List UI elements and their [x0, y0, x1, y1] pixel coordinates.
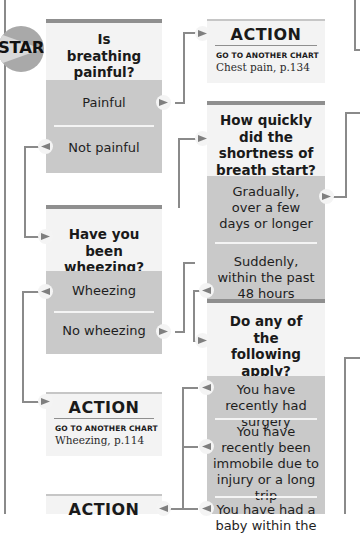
options-group: Painful Not painful: [46, 80, 162, 173]
option-no-wheezing[interactable]: No wheezing: [46, 323, 162, 339]
question-title: Do any of the following apply?: [207, 313, 325, 379]
arrow-in-action-partial-icon: [156, 501, 171, 516]
action-subtitle: GO TO ANOTHER CHART: [55, 424, 158, 433]
option-separator: [215, 242, 317, 244]
question-rule: [207, 101, 325, 105]
arrow-in-wheezing-icon: [38, 229, 53, 244]
page-border-line: [4, 0, 6, 514]
arrow-out-gradually-icon: [319, 189, 334, 204]
action-title: ACTION: [207, 25, 325, 44]
option-recent-baby[interactable]: You have had a baby within the: [207, 502, 325, 534]
option-wheezing[interactable]: Wheezing: [46, 283, 162, 299]
option-gradually[interactable]: Gradually, over a few days or longer: [207, 184, 325, 232]
connector-gradually-out-v: [345, 112, 347, 198]
question-rule: [46, 205, 162, 209]
question-any-apply: Do any of the following apply? You have …: [207, 299, 325, 514]
option-not-painful[interactable]: Not painful: [46, 140, 162, 156]
start-marker: START: [0, 26, 44, 72]
option-separator: [54, 125, 154, 127]
question-title: Is breathing painful?: [46, 31, 162, 81]
connector-gradually-out-top: [345, 112, 360, 114]
arrow-in-how-quickly-icon: [195, 131, 210, 146]
question-title: How quickly did the shortness of breath …: [207, 112, 325, 178]
option-separator: [54, 311, 154, 313]
question-how-quickly: How quickly did the shortness of breath …: [207, 101, 325, 317]
arrow-out-suddenly-icon: [199, 283, 214, 298]
action-reference-link[interactable]: Chest pain, p.134: [216, 61, 310, 73]
options-group: You have recently had surgery You have r…: [207, 376, 325, 514]
connector-any-apply-1: [182, 387, 198, 389]
connector-nowheezing-out-v: [183, 262, 185, 333]
option-separator: [215, 418, 317, 420]
question-breathing-painful: Is breathing painful? Painful Not painfu…: [46, 19, 162, 173]
arrow-out-immobile-icon: [199, 439, 214, 454]
action-title: ACTION: [46, 398, 162, 417]
action-title: ACTION: [46, 500, 162, 519]
connector-top-right-h: [354, 49, 360, 51]
action-top-rule: [46, 392, 162, 394]
question-rule: [46, 19, 162, 23]
arrow-out-wheezing-icon: [38, 284, 53, 299]
option-suddenly[interactable]: Suddenly, within the past 48 hours: [207, 254, 325, 302]
action-wheezing: ACTION GO TO ANOTHER CHART Wheezing, p.1…: [46, 392, 162, 456]
arrow-out-surgery-icon: [199, 380, 214, 395]
action-top-rule: [46, 494, 162, 496]
action-subtitle: GO TO ANOTHER CHART: [216, 51, 319, 60]
connector-suddenly-out-v: [193, 290, 195, 342]
option-recent-surgery[interactable]: You have recently had surgery: [207, 382, 325, 430]
option-painful[interactable]: Painful: [46, 95, 162, 111]
question-title: Have you been wheezing?: [46, 226, 162, 276]
connector-top-right-v: [354, 0, 356, 51]
action-chest-pain: ACTION GO TO ANOTHER CHART Chest pain, p…: [207, 19, 325, 83]
connector-right-lower-h: [344, 357, 360, 359]
action-rule: [215, 45, 317, 46]
option-separator: [215, 496, 317, 498]
start-label: START: [0, 38, 44, 57]
options-group: Gradually, over a few days or longer Sud…: [207, 176, 325, 317]
arrow-out-no-wheezing-icon: [156, 324, 171, 339]
connector-any-apply-bracket: [182, 387, 184, 510]
connector-right-lower-v: [344, 357, 346, 514]
arrow-out-painful-icon: [156, 95, 171, 110]
question-wheezing: Have you been wheezing? Wheezing No whee…: [46, 205, 162, 354]
connector-to-how-quickly-v: [178, 138, 180, 208]
connector-any-apply-2: [182, 446, 198, 448]
arrow-in-action-chest-pain-icon: [195, 26, 210, 41]
connector-any-apply-3: [168, 508, 198, 510]
question-rule: [207, 299, 325, 303]
arrow-out-baby-icon: [199, 501, 214, 516]
action-rule: [54, 418, 154, 419]
connector-nowheezing-top: [183, 262, 195, 264]
arrow-in-action-wheezing-icon: [38, 394, 53, 409]
action-partial: ACTION: [46, 494, 162, 514]
action-top-rule: [207, 19, 325, 21]
options-group: Wheezing No wheezing: [46, 271, 162, 354]
arrow-in-any-apply-icon: [195, 333, 210, 348]
connector-notpainful-to-wheezing-v: [24, 146, 26, 238]
option-recently-immobile[interactable]: You have recently been immobile due to i…: [207, 424, 325, 504]
arrow-out-not-painful-icon: [38, 139, 53, 154]
action-reference-link[interactable]: Wheezing, p.114: [55, 434, 144, 446]
connector-painful-to-chest-pain-v: [183, 32, 185, 104]
connector-wheezing-out-v: [22, 291, 24, 403]
